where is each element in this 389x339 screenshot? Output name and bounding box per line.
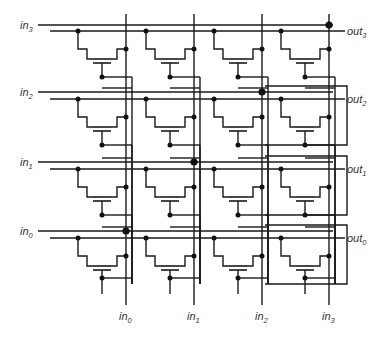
column-label-in1: in1: [187, 310, 200, 325]
crosspoint-dot: [122, 227, 129, 234]
transistor-drain: [214, 238, 229, 266]
gate-junction-dot: [236, 213, 241, 218]
transistor-drain: [214, 31, 229, 59]
transistor-drain: [281, 169, 296, 197]
gate-junction-dot: [100, 75, 105, 80]
transistor-drain: [146, 169, 161, 197]
column-junction-dot: [327, 47, 332, 52]
output-tap-dot: [212, 97, 217, 102]
transistor-drain: [78, 99, 93, 127]
crosspoint-dot: [325, 21, 332, 28]
transistor-source: [314, 187, 329, 197]
transistor-drain: [214, 99, 229, 127]
transistor-drain: [281, 99, 296, 127]
column-junction-dot: [327, 115, 332, 120]
gate-junction-dot: [168, 75, 173, 80]
gate-junction-dot: [168, 213, 173, 218]
output-tap-dot: [76, 167, 81, 172]
output-tap-dot: [144, 167, 149, 172]
row-label-in3: in3: [20, 19, 34, 34]
column-junction-dot: [260, 185, 265, 190]
crossbar-circuit-diagram: in3 in2 in1 in0 out3 out2 out1 out0 in0 …: [0, 0, 389, 339]
gate-junction-dot: [100, 143, 105, 148]
column-junction-dot: [192, 254, 197, 259]
row-label-in1: in1: [20, 156, 33, 171]
transistor-source: [247, 117, 262, 127]
gate-junction-dot: [100, 213, 105, 218]
transistor-drain: [214, 169, 229, 197]
column-junction-dot: [192, 47, 197, 52]
transistor-source: [314, 117, 329, 127]
gate-junction-dot: [236, 143, 241, 148]
output-label-out0: out0: [347, 232, 367, 247]
transistor-source: [247, 256, 262, 266]
transistor-source: [314, 256, 329, 266]
transistor-drain: [78, 31, 93, 59]
row-label-in0: in0: [20, 225, 34, 240]
transistor-drain: [281, 238, 296, 266]
wires-layer: [38, 14, 347, 305]
gate-junction-dot: [236, 75, 241, 80]
output-tap-dot: [76, 29, 81, 34]
transistor-source: [247, 187, 262, 197]
column-junction-dot: [124, 254, 129, 259]
row-label-in2: in2: [20, 86, 34, 101]
transistor-source: [314, 49, 329, 59]
column-junction-dot: [192, 115, 197, 120]
crosspoint-dot: [190, 158, 197, 165]
column-junction-dot: [124, 115, 129, 120]
output-tap-dot: [212, 29, 217, 34]
output-tap-dot: [279, 29, 284, 34]
output-tap-dot: [144, 29, 149, 34]
column-junction-dot: [260, 115, 265, 120]
output-tap-dot: [279, 167, 284, 172]
transistor-source: [179, 187, 194, 197]
output-label-out2: out2: [347, 93, 367, 108]
transistor-drain: [146, 99, 161, 127]
output-tap-dot: [144, 97, 149, 102]
output-tap-dot: [279, 236, 284, 241]
output-label-out3: out3: [347, 25, 367, 40]
column-label-in0: in0: [119, 310, 133, 325]
transistor-source: [111, 256, 126, 266]
column-label-in3: in3: [322, 310, 336, 325]
transistor-source: [179, 49, 194, 59]
crosspoint-dot: [258, 88, 265, 95]
transistor-drain: [146, 238, 161, 266]
output-label-out1: out1: [347, 163, 366, 178]
output-tap-dot: [144, 236, 149, 241]
output-tap-dot: [212, 167, 217, 172]
transistor-drain: [146, 31, 161, 59]
transistor-drain: [78, 169, 93, 197]
output-tap-dot: [76, 236, 81, 241]
column-label-in2: in2: [255, 310, 269, 325]
column-junction-dot: [327, 185, 332, 190]
output-tap-dot: [76, 97, 81, 102]
transistor-source: [179, 256, 194, 266]
gate-junction-dot: [168, 143, 173, 148]
column-junction-dot: [192, 185, 197, 190]
transistor-source: [111, 187, 126, 197]
transistor-source: [111, 49, 126, 59]
column-junction-dot: [260, 254, 265, 259]
column-junction-dot: [124, 185, 129, 190]
transistor-drain: [281, 31, 296, 59]
transistor-source: [247, 49, 262, 59]
column-junction-dot: [327, 254, 332, 259]
transistor-source: [179, 117, 194, 127]
output-tap-dot: [212, 236, 217, 241]
transistor-source: [111, 117, 126, 127]
column-junction-dot: [260, 47, 265, 52]
gate-junction-dot: [303, 75, 308, 80]
output-tap-dot: [279, 97, 284, 102]
column-junction-dot: [124, 47, 129, 52]
transistor-drain: [78, 238, 93, 266]
